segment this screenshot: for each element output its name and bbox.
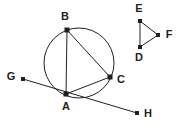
segment-DF <box>140 35 158 47</box>
point-label-H: H <box>144 107 152 119</box>
point-C-dot <box>108 75 113 80</box>
point-G-dot <box>21 77 25 81</box>
point-label-G: G <box>7 70 16 82</box>
point-label-E: E <box>135 2 142 14</box>
geometry-canvas: A B C D E F G H <box>0 0 185 132</box>
point-label-B: B <box>61 10 69 22</box>
segment-AB <box>66 30 67 94</box>
geometry-figure: A B C D E F G H <box>0 0 185 132</box>
point-D-dot <box>138 45 142 49</box>
segment-EF <box>140 21 158 35</box>
main-circle <box>44 28 114 98</box>
segment-AC <box>66 77 110 94</box>
segment-BC <box>67 30 110 77</box>
point-F-dot <box>156 33 160 37</box>
point-H-dot <box>135 111 139 115</box>
point-label-A: A <box>62 100 70 112</box>
point-E-dot <box>138 19 142 23</box>
point-label-C: C <box>117 73 125 85</box>
point-B-dot <box>65 28 70 33</box>
point-A-dot <box>64 92 69 97</box>
point-label-D: D <box>135 51 143 63</box>
point-label-F: F <box>166 28 173 40</box>
